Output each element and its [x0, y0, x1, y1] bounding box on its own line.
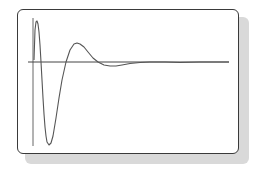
response-curve	[34, 21, 229, 145]
oscillation-plot	[0, 0, 258, 171]
